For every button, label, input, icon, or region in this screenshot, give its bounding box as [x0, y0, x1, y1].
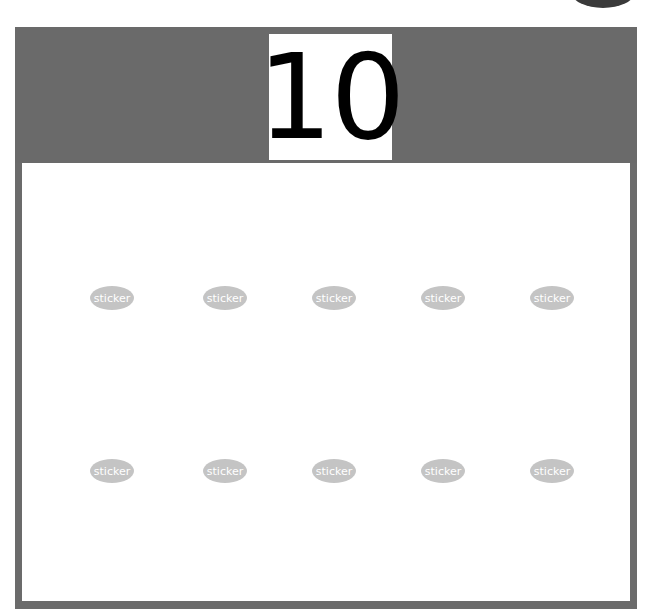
sticker-slot-4[interactable]: sticker [421, 286, 465, 310]
sticker-slot-6[interactable]: sticker [90, 459, 134, 483]
sticker-slot-8[interactable]: sticker [312, 459, 356, 483]
header-band: 10 [15, 27, 637, 163]
sticker-slot-9[interactable]: sticker [421, 459, 465, 483]
number-label: 10 [257, 38, 403, 156]
number-box: 10 [269, 34, 392, 160]
sticker-slot-10[interactable]: sticker [530, 459, 574, 483]
sticker-slot-1[interactable]: sticker [90, 286, 134, 310]
sticker-slot-7[interactable]: sticker [203, 459, 247, 483]
sticker-area: sticker sticker sticker sticker sticker … [22, 163, 630, 601]
corner-badge [572, 0, 634, 8]
sticker-chart-frame: 10 sticker sticker sticker sticker stick… [15, 27, 637, 609]
sticker-slot-5[interactable]: sticker [530, 286, 574, 310]
sticker-slot-3[interactable]: sticker [312, 286, 356, 310]
sticker-slot-2[interactable]: sticker [203, 286, 247, 310]
